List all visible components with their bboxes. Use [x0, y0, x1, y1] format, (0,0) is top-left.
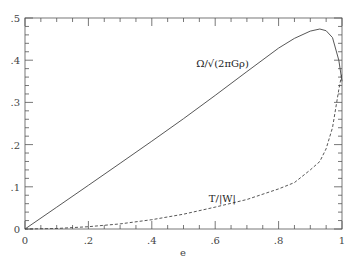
y-tick-label: .1: [10, 182, 20, 193]
x-tick-label: .2: [84, 235, 94, 246]
plot-frame: [25, 18, 342, 229]
y-tick-label: .4: [10, 55, 20, 66]
axis-tick-labels: 0.2.4.6.810.1.2.3.4.5: [10, 13, 345, 246]
x-tick-label: 0: [22, 235, 28, 246]
omega-curve: [25, 29, 342, 229]
x-tick-label: .8: [274, 235, 284, 246]
x-tick-label: .4: [147, 235, 157, 246]
x-tick-label: .6: [210, 235, 220, 246]
t-over-w-curve: [25, 73, 342, 229]
x-tick-label: 1: [339, 235, 345, 246]
omega-curve-label: Ω/√(2πGρ): [196, 58, 249, 69]
t-over-w-label: T/|W|: [209, 193, 236, 205]
x-axis-label: e: [180, 247, 186, 258]
chart: 0.2.4.6.810.1.2.3.4.5 Ω/√(2πGρ) T/|W| e: [0, 0, 354, 261]
axis-ticks: [25, 18, 342, 229]
y-tick-label: 0: [14, 224, 20, 235]
y-tick-label: .2: [10, 140, 20, 151]
y-tick-label: .5: [10, 13, 20, 24]
y-tick-label: .3: [10, 97, 20, 108]
